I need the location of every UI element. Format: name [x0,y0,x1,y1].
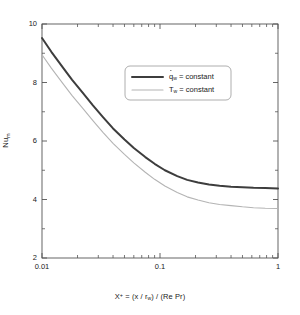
y-tick-label-4: 10 [15,19,37,28]
x-tick-label-1: 0.1 [140,262,180,271]
legend-symbol-0: q [169,72,173,81]
y-tick-label-1: 4 [15,195,37,204]
legend-label-0: qw = constant [169,72,214,81]
axis-ticks [42,24,278,258]
y-axis-title-text: Num [1,133,10,147]
y-axis-title: Num [1,121,10,161]
curve-series-0 [42,38,278,188]
data-curves [42,38,278,209]
plot-frame [42,24,278,258]
x-axis-title-text: X+ = (x / rw) / (Re Pr) [115,292,186,301]
y-tick-label-2: 6 [15,136,37,145]
chart-figure: X+ = (x / rw) / (Re Pr) Num 0.010.11 246… [0,0,300,315]
x-tick-label-0: 0.01 [22,262,62,271]
x-axis-title: X+ = (x / rw) / (Re Pr) [0,292,300,301]
legend-text-1: = constant [177,85,214,94]
y-tick-label-3: 8 [15,78,37,87]
y-tick-label-0: 2 [15,253,37,262]
legend-text-0: = constant [177,72,214,81]
legend-label-1: Tw = constant [169,85,214,94]
x-tick-label-2: 1 [258,262,298,271]
